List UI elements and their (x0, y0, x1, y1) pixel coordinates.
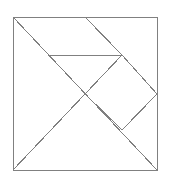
tangram-figure (0, 0, 169, 185)
tangram-svg (0, 0, 169, 185)
